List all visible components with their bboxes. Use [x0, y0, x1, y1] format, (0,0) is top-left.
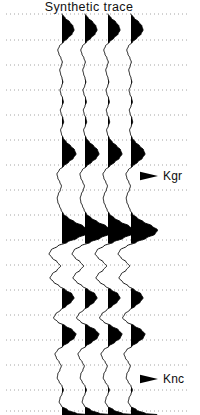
horizon-label-kgr: Kgr: [163, 169, 182, 183]
horizon-marker-arrows: [0, 0, 200, 415]
marker-arrow-icon-0: [140, 172, 158, 180]
horizon-label-knc: Knc: [163, 372, 184, 386]
marker-arrow-icon-1: [140, 375, 158, 383]
seismic-synthetic-trace-figure: Synthetic trace KgrKnc: [0, 0, 200, 415]
